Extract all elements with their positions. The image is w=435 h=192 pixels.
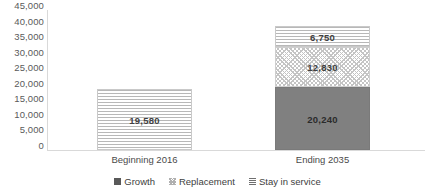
chart-legend: Growth Replacement Stay in service: [0, 174, 435, 188]
y-tick-15000: 15,000: [0, 94, 44, 104]
legend-swatch-replacement-icon: [169, 178, 176, 185]
y-axis: 45,000 40,000 35,000 30,000 25,000 20,00…: [0, 6, 44, 152]
x-axis-line: [47, 150, 425, 151]
legend-label-growth: Growth: [124, 176, 155, 187]
x-label-beginning-2016: Beginning 2016: [97, 154, 192, 166]
y-tick-0: 0: [0, 141, 44, 151]
bar-label-stay-in-service: 6,750: [276, 31, 369, 42]
y-tick-45000: 45,000: [0, 1, 44, 11]
bar-ending-2035[interactable]: 20,240 12,830 6,750: [275, 26, 370, 150]
legend-item-growth[interactable]: Growth: [114, 176, 155, 187]
legend-swatch-stay-in-service-icon: [249, 178, 256, 185]
x-label-ending-2035: Ending 2035: [275, 154, 370, 166]
plot-area: 19,580 20,240 12,830 6,750: [47, 10, 425, 150]
x-axis-category-labels: Beginning 2016 Ending 2035: [47, 154, 425, 168]
bar-label-replacement: 12,830: [276, 62, 369, 73]
y-tick-35000: 35,000: [0, 32, 44, 42]
bar-segment-replacement[interactable]: 12,830: [275, 47, 370, 87]
stacked-bar-chart: 45,000 40,000 35,000 30,000 25,000 20,00…: [0, 0, 435, 192]
y-tick-40000: 40,000: [0, 17, 44, 27]
legend-item-replacement[interactable]: Replacement: [169, 176, 235, 187]
legend-swatch-growth-icon: [114, 178, 121, 185]
y-tick-25000: 25,000: [0, 63, 44, 73]
bar-label-growth: 20,240: [276, 113, 369, 124]
y-tick-30000: 30,000: [0, 48, 44, 58]
bar-segment-stay-in-service[interactable]: 19,580: [97, 89, 192, 150]
y-tick-5000: 5,000: [0, 125, 44, 135]
bar-segment-stay-in-service[interactable]: 6,750: [275, 26, 370, 47]
legend-item-stay-in-service[interactable]: Stay in service: [249, 176, 321, 187]
bar-label-stay-in-service: 19,580: [98, 114, 191, 125]
bar-segment-growth[interactable]: 20,240: [275, 87, 370, 150]
legend-label-stay-in-service: Stay in service: [259, 176, 321, 187]
legend-label-replacement: Replacement: [179, 176, 235, 187]
bar-beginning-2016[interactable]: 19,580: [97, 89, 192, 150]
y-tick-10000: 10,000: [0, 110, 44, 120]
y-tick-20000: 20,000: [0, 79, 44, 89]
